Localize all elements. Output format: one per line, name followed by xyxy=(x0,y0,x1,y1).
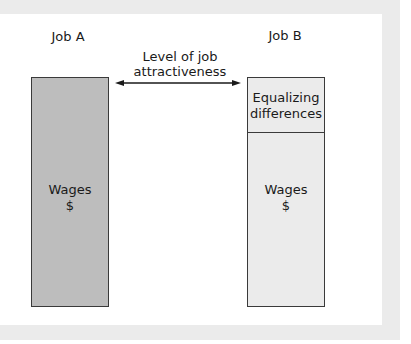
segment-divider xyxy=(248,132,324,133)
job-b-bar: Equalizing differences Wages $ xyxy=(247,77,325,307)
job-a-wages-symbol: $ xyxy=(32,198,108,214)
job-b-equalizing-label-2: differences xyxy=(248,106,324,122)
job-a-wages-label: Wages xyxy=(32,182,108,198)
job-b-equalizing-label-1: Equalizing xyxy=(248,90,324,106)
job-a-bar: Wages $ xyxy=(31,77,109,307)
job-b-wages-label: Wages xyxy=(248,182,324,198)
job-b-wages-symbol: $ xyxy=(248,198,324,214)
